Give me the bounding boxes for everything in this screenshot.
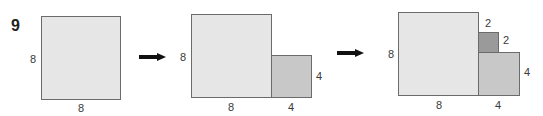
medium-square [478,52,520,96]
arrow-right-icon [139,53,166,61]
label-bottom-large: 8 [436,100,442,111]
label-bottom-medium: 4 [495,100,501,111]
label-right-medium: 4 [316,71,322,82]
medium-square [271,55,312,98]
large-square [191,14,272,98]
arrow-right-icon [337,49,364,57]
label-bottom-large: 8 [228,102,234,113]
label-left: 8 [30,54,36,65]
label-right-small: 2 [503,35,509,46]
label-right-medium: 4 [524,67,530,78]
label-left: 8 [388,49,394,60]
large-square [41,16,121,100]
label-top-small: 2 [485,18,491,29]
large-square [398,12,479,96]
small-square [478,32,499,53]
label-left: 8 [180,52,186,63]
problem-number: 9 [11,17,20,35]
label-bottom-medium: 4 [288,102,294,113]
label-bottom: 8 [78,103,84,114]
